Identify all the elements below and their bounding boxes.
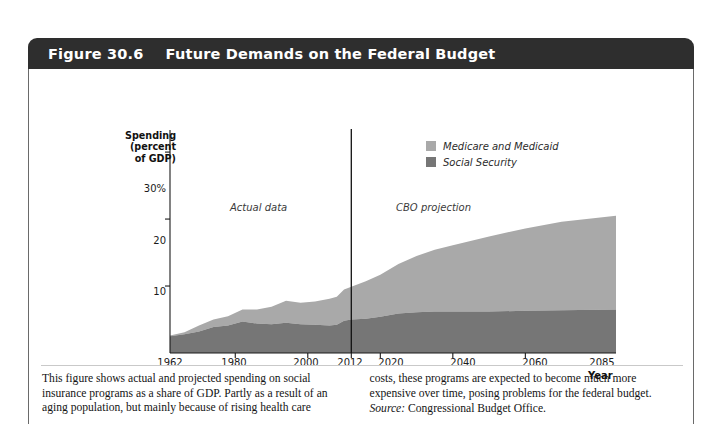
figure-title: Future Demands on the Federal Budget bbox=[166, 46, 496, 62]
caption-source: Source: Congressional Budget Office. bbox=[370, 402, 683, 417]
x-tick-label-2060: 2060 bbox=[522, 357, 547, 368]
caption-column-right: costs, these programs are expected to be… bbox=[370, 372, 683, 424]
x-tick-label-2000: 2000 bbox=[293, 357, 318, 368]
source-text: Congressional Budget Office. bbox=[405, 402, 546, 415]
figure-number: Figure 30.6 bbox=[48, 46, 144, 62]
caption-right-text: costs, these programs are expected to be… bbox=[370, 372, 652, 400]
x-tick-label-2012: 2012 bbox=[337, 357, 362, 368]
chart-plot bbox=[29, 69, 695, 365]
source-label: Source: bbox=[370, 402, 406, 415]
figure-caption: This figure shows actual and projected s… bbox=[42, 372, 682, 424]
x-tick-label-2020: 2020 bbox=[378, 357, 403, 368]
chart-area: Spending (percent of GDP) 30% 20 10 Actu… bbox=[29, 69, 695, 365]
figure-body: Spending (percent of GDP) 30% 20 10 Actu… bbox=[28, 69, 694, 424]
x-tick-label-2085: 2085 bbox=[589, 357, 614, 368]
caption-divider bbox=[41, 365, 683, 366]
caption-column-left: This figure shows actual and projected s… bbox=[42, 372, 355, 424]
x-tick-label-1962: 1962 bbox=[157, 357, 182, 368]
x-tick-label-1980: 1980 bbox=[221, 357, 246, 368]
figure-header-bar: Figure 30.6 Future Demands on the Federa… bbox=[28, 38, 694, 69]
figure-card: Figure 30.6 Future Demands on the Federa… bbox=[28, 38, 694, 424]
x-tick-label-2040: 2040 bbox=[450, 357, 475, 368]
